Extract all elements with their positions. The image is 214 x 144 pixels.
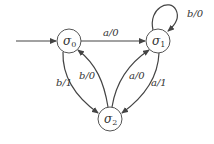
edge-label-s0-s1: a/0 [103, 27, 119, 38]
edge-label-s2-s1: a/0 [129, 70, 145, 81]
edge-s1-s1 [152, 5, 177, 31]
state-diagram: a/0 b/0 b/1 b/0 a/0 a/1 σ0 σ1 σ2 [0, 0, 214, 144]
edge-label-s1-s1: b/0 [187, 8, 204, 19]
state-s1: σ1 [146, 29, 170, 53]
edge-label-s0-s2: b/1 [56, 77, 72, 88]
edge-label-s1-s2: a/1 [151, 77, 167, 88]
edge-label-s2-s0: b/0 [79, 70, 96, 81]
state-s2: σ2 [98, 107, 122, 131]
state-s0: σ0 [57, 29, 81, 53]
